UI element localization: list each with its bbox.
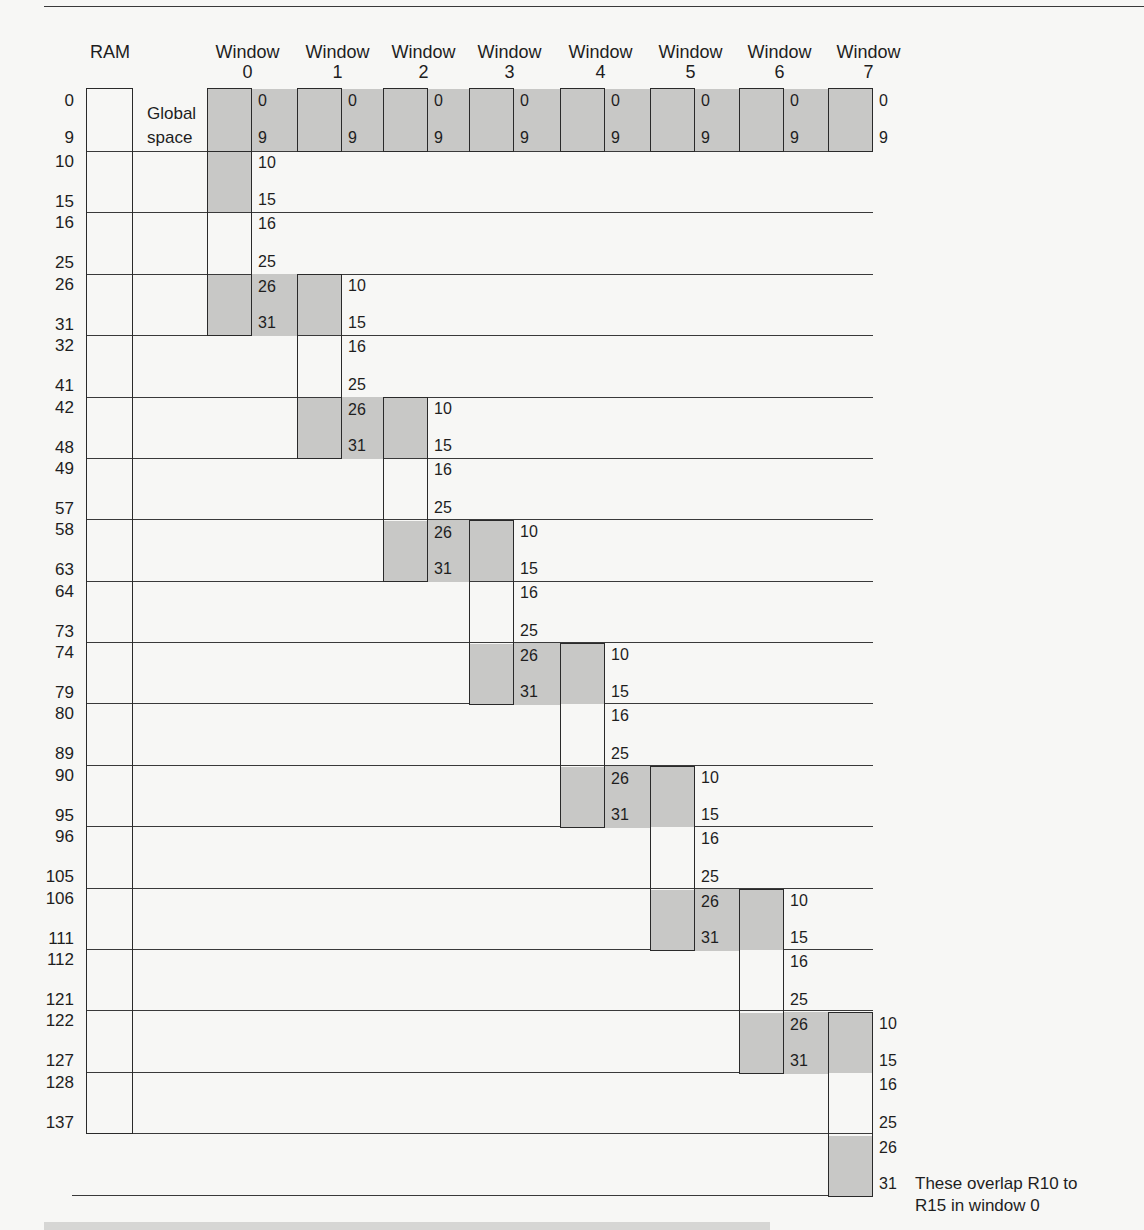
overlap-note: These overlap R10 to R15 in window 0 [915, 1173, 1078, 1217]
window-number: 6 [740, 62, 820, 82]
reg-label: 16 [434, 462, 452, 478]
reg-label: 10 [611, 647, 629, 663]
row-divider [86, 335, 873, 336]
window-header-2: Window2 [384, 42, 464, 82]
window-word: Window [561, 42, 641, 62]
reg-label: 9 [520, 130, 529, 146]
ram-address: 64 [34, 583, 74, 600]
window-word: Window [651, 42, 731, 62]
ram-address: 106 [34, 890, 74, 907]
reg-label: 0 [434, 93, 443, 109]
ram-address: 127 [34, 1052, 74, 1069]
ram-address: 122 [34, 1012, 74, 1029]
ram-address: 79 [34, 684, 74, 701]
overlap-note-line2: R15 in window 0 [915, 1195, 1078, 1217]
ram-address: 15 [34, 193, 74, 210]
reg-label: 0 [701, 93, 710, 109]
ram-address: 73 [34, 623, 74, 640]
reg-label: 31 [701, 930, 719, 946]
row-divider [86, 397, 873, 398]
reg-label: 15 [879, 1053, 897, 1069]
ram-address: 26 [34, 276, 74, 293]
top-rule [44, 6, 1144, 7]
ram-address: 48 [34, 439, 74, 456]
window-header-7: Window7 [829, 42, 909, 82]
reg-label: 26 [611, 771, 629, 787]
window-5-in-shade [651, 767, 694, 827]
ram-address: 112 [34, 951, 74, 968]
reg-label: 15 [520, 561, 538, 577]
window-2-in-shade [384, 398, 427, 458]
ram-address: 89 [34, 745, 74, 762]
window-number: 7 [829, 62, 909, 82]
reg-label: 16 [520, 585, 538, 601]
window-word: Window [298, 42, 378, 62]
reg-label: 16 [879, 1077, 897, 1093]
overlap-note-line1: These overlap R10 to [915, 1173, 1078, 1195]
window-6-global-box [739, 88, 784, 152]
reg-label: 31 [611, 807, 629, 823]
reg-label: 25 [258, 254, 276, 270]
ram-address: 0 [34, 92, 74, 109]
window-3-out-shade [470, 644, 513, 704]
reg-label: 26 [348, 402, 366, 418]
window-6-in-shade [740, 890, 783, 950]
row-divider [72, 1195, 873, 1196]
reg-label: 25 [701, 869, 719, 885]
row-divider [86, 212, 873, 213]
reg-label: 25 [879, 1115, 897, 1131]
reg-label: 15 [258, 192, 276, 208]
window-header-1: Window1 [298, 42, 378, 82]
reg-label: 15 [348, 315, 366, 331]
row-divider [86, 1133, 873, 1134]
reg-label: 9 [879, 130, 888, 146]
reg-label: 16 [611, 708, 629, 724]
reg-label: 0 [879, 93, 888, 109]
reg-label: 25 [790, 992, 808, 1008]
ram-address: 41 [34, 377, 74, 394]
bottom-bar [44, 1222, 770, 1230]
ram-address: 63 [34, 561, 74, 578]
ram-address: 31 [34, 316, 74, 333]
reg-label: 25 [520, 623, 538, 639]
reg-label: 15 [434, 438, 452, 454]
row-divider [86, 458, 873, 459]
reg-label: 16 [701, 831, 719, 847]
reg-label: 26 [258, 279, 276, 295]
reg-label: 0 [611, 93, 620, 109]
reg-label: 25 [611, 746, 629, 762]
ram-address: 32 [34, 337, 74, 354]
ram-address: 57 [34, 500, 74, 517]
reg-label: 16 [790, 954, 808, 970]
reg-label: 16 [348, 339, 366, 355]
reg-label: 10 [258, 155, 276, 171]
reg-label: 0 [348, 93, 357, 109]
window-number: 5 [651, 62, 731, 82]
reg-label: 31 [520, 684, 538, 700]
ram-address: 90 [34, 767, 74, 784]
row-divider [86, 826, 873, 827]
window-7-in-shade [829, 1013, 872, 1073]
register-window-diagram: RAM Window0Window1Window2Window3Window4W… [0, 0, 1144, 1230]
window-6-out-shade [740, 1013, 783, 1073]
ram-address: 137 [34, 1114, 74, 1131]
window-number: 1 [298, 62, 378, 82]
reg-label: 25 [348, 377, 366, 393]
window-1-in-shade [298, 275, 341, 335]
global-label-line1: Global [147, 102, 196, 126]
global-label: Global space [147, 102, 196, 150]
reg-label: 15 [701, 807, 719, 823]
window-header-3: Window3 [470, 42, 550, 82]
window-7-out-shade [829, 1136, 872, 1196]
reg-label: 31 [348, 438, 366, 454]
window-4-out-shade [561, 767, 604, 827]
reg-label: 31 [879, 1176, 897, 1192]
window-header-6: Window6 [740, 42, 820, 82]
window-0-in-shade [208, 152, 251, 212]
reg-label: 9 [258, 130, 267, 146]
window-1-global-box [297, 88, 342, 152]
window-3-global-box [469, 88, 514, 152]
ram-address: 121 [34, 991, 74, 1008]
window-word: Window [208, 42, 288, 62]
reg-label: 9 [790, 130, 799, 146]
